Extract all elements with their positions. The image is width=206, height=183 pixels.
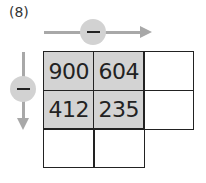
horizontal-minus-operator <box>80 19 106 45</box>
grid-cell-r1c1: 900 <box>43 51 95 91</box>
arrow-down-icon <box>17 118 29 130</box>
arrow-right-icon <box>140 26 152 38</box>
vertical-minus-operator <box>10 76 36 102</box>
problem-label: (8) <box>9 4 29 20</box>
grid-cell-r1c3-answer[interactable] <box>143 51 194 91</box>
grid-cell-r3c2-answer[interactable] <box>93 128 145 168</box>
grid-cell-r2c1: 412 <box>43 90 95 130</box>
minus-icon <box>17 88 30 91</box>
minus-icon <box>87 31 100 34</box>
grid-cell-r3c1-answer[interactable] <box>43 128 95 168</box>
grid-cell-r2c2: 235 <box>93 90 145 130</box>
grid-cell-r2c3-answer[interactable] <box>143 90 194 130</box>
grid-cell-r1c2: 604 <box>93 51 145 91</box>
